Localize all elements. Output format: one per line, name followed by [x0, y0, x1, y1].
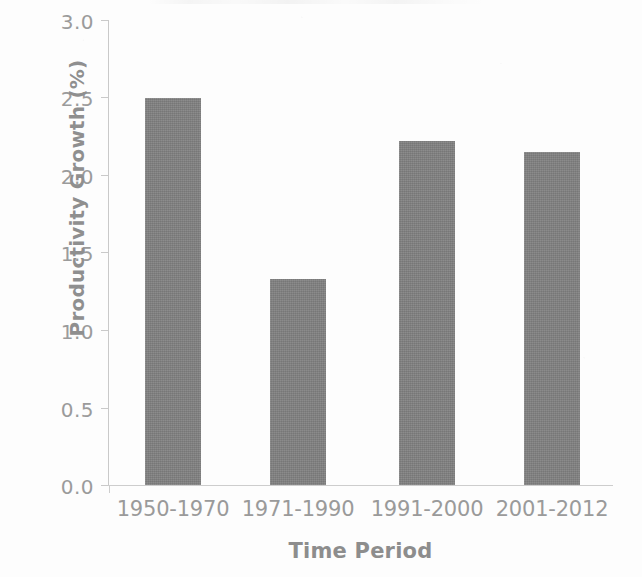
- x-axis-line: [108, 485, 613, 486]
- y-tick-label-3-0: 3.0: [44, 20, 94, 21]
- y-axis-line: [108, 20, 109, 486]
- y-tick-mark-2-5: [101, 97, 108, 98]
- x-category-label-1: 1950-1970: [108, 497, 238, 522]
- bar-1950-1970: [145, 98, 201, 486]
- x-axis-title: Time Period: [108, 539, 613, 563]
- y-tick-label-text: 0.5: [61, 398, 94, 422]
- y-tick-mark-2-0: [101, 175, 108, 176]
- y-axis-title: Productivity Growth (%): [65, 48, 89, 348]
- x-category-label-2: 1971-1990: [233, 497, 363, 522]
- y-tick-mark-1-5: [101, 252, 108, 253]
- y-tick-mark-1-0: [101, 330, 108, 331]
- x-category-label-4: 2001-2012: [487, 497, 617, 522]
- bar-chart-figure: 3.0 2.5 2.0 1.5 1.0 0.5 0.0 1950-1970 19…: [0, 0, 642, 577]
- bar-2001-2012: [524, 152, 580, 485]
- bar-1971-1990: [270, 279, 326, 485]
- y-tick-label-text: 3.0: [61, 10, 94, 34]
- x-tick-mark-origin: [109, 486, 110, 493]
- y-tick-mark-0-5: [101, 408, 108, 409]
- bar-1991-2000: [399, 141, 455, 485]
- x-category-label-3: 1991-2000: [362, 497, 492, 522]
- y-tick-label-text: 0.0: [61, 475, 94, 499]
- y-tick-mark-0-0: [101, 485, 108, 486]
- y-tick-label-0-5: 0.5: [44, 408, 94, 409]
- cropped-title-remnant: [148, 0, 488, 4]
- y-tick-mark-3-0: [101, 20, 108, 21]
- y-tick-label-0-0: 0.0: [44, 485, 94, 486]
